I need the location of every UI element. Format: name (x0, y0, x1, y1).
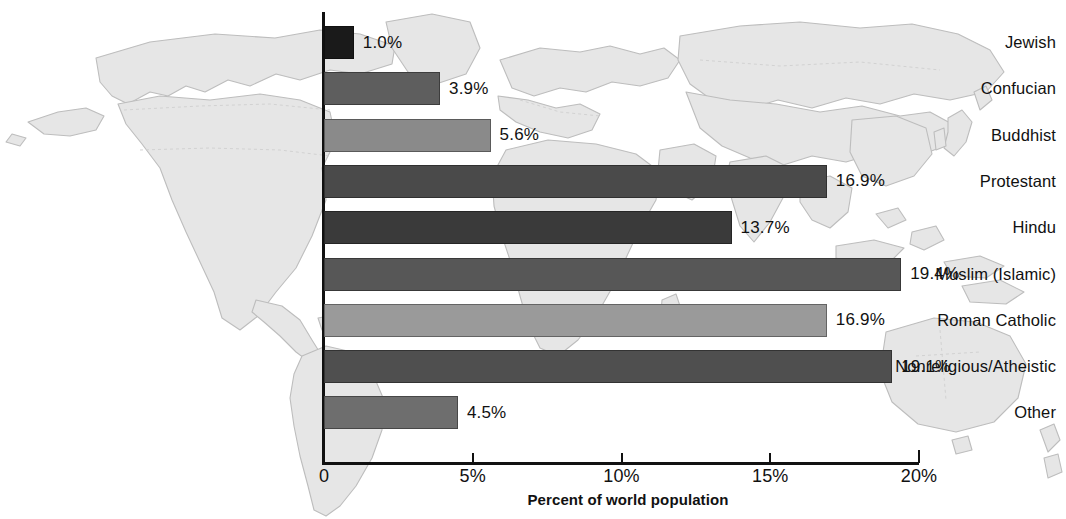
bar-row: Other4.5% (0, 396, 1066, 429)
x-tick-label-5pct: 5% (433, 466, 513, 487)
value-label-hindu: 13.7% (741, 211, 790, 244)
bar-row: Muslim (Islamic)19.4% (0, 258, 1066, 291)
x-tick-label-20pct: 20% (879, 466, 959, 487)
value-label-jewish: 1.0% (363, 26, 403, 59)
bar-hindu (324, 211, 732, 244)
bar-row: Protestant16.9% (0, 165, 1066, 198)
x-axis-line (322, 462, 919, 465)
x-axis-title: Percent of world population (0, 491, 1066, 508)
bar-nonreligious-atheistic (324, 350, 892, 383)
x-tick-10pct (621, 453, 623, 462)
x-tick-label-15pct: 15% (730, 466, 810, 487)
value-label-confucian: 3.9% (449, 72, 489, 105)
x-tick-5pct (472, 453, 474, 462)
category-label-buddhist: Buddhist (746, 119, 1066, 152)
bar-jewish (324, 26, 354, 59)
bar-row: Jewish1.0% (0, 26, 1066, 59)
value-label-roman-catholic: 16.9% (836, 304, 885, 337)
chart-figure: 05%10%15%20% Jewish1.0%Confucian3.9%Budd… (0, 0, 1066, 519)
x-tick-20pct (918, 450, 920, 463)
bar-row: Roman Catholic16.9% (0, 304, 1066, 337)
category-label-confucian: Confucian (746, 72, 1066, 105)
bar-row: Buddhist5.6% (0, 119, 1066, 152)
value-label-protestant: 16.9% (836, 165, 885, 198)
value-label-buddhist: 5.6% (500, 119, 540, 152)
x-axis-title-text: Percent of world population (337, 491, 728, 508)
bar-roman-catholic (324, 304, 827, 337)
x-tick-15pct (769, 453, 771, 462)
bar-row: Nonreligious/Atheistic19.1% (0, 350, 1066, 383)
value-label-muslim-islamic: 19.4% (910, 258, 959, 291)
x-tick-label-10pct: 10% (582, 466, 662, 487)
bar-muslim-islamic (324, 258, 901, 291)
bar-row: Confucian3.9% (0, 72, 1066, 105)
category-label-hindu: Hindu (746, 211, 1066, 244)
x-tick-label-0: 0 (284, 466, 364, 487)
value-label-other: 4.5% (467, 396, 507, 429)
value-label-nonreligious-atheistic: 19.1% (901, 350, 950, 383)
bar-other (324, 396, 458, 429)
bar-buddhist (324, 119, 491, 152)
bar-protestant (324, 165, 827, 198)
category-label-other: Other (746, 396, 1066, 429)
category-label-jewish: Jewish (746, 26, 1066, 59)
bar-row: Hindu13.7% (0, 211, 1066, 244)
bar-chart-plot: 05%10%15%20% Jewish1.0%Confucian3.9%Budd… (0, 0, 1066, 519)
bar-confucian (324, 72, 440, 105)
